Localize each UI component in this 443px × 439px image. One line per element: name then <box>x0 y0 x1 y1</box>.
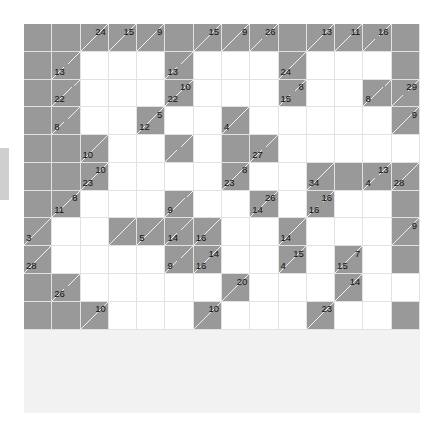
cell-open[interactable] <box>279 107 307 135</box>
cell-open[interactable] <box>165 302 193 330</box>
across-clue: 27 <box>252 150 263 160</box>
cell-open[interactable] <box>335 191 363 219</box>
cell-open[interactable] <box>194 191 222 219</box>
cell-open[interactable] <box>392 274 420 302</box>
cell-open[interactable] <box>307 218 335 246</box>
cell-open[interactable] <box>222 80 250 108</box>
cell-open[interactable] <box>279 163 307 191</box>
cell-open[interactable] <box>222 246 250 274</box>
cell-open[interactable] <box>363 302 391 330</box>
cell-open[interactable] <box>250 163 278 191</box>
cell-open[interactable] <box>109 302 137 330</box>
cell-open[interactable] <box>363 135 391 163</box>
cell-open[interactable] <box>109 163 137 191</box>
cell-open[interactable] <box>81 246 109 274</box>
cell-clue: 15 <box>109 24 137 52</box>
cell-open[interactable] <box>165 274 193 302</box>
cell-open[interactable] <box>307 80 335 108</box>
cell-open[interactable] <box>81 80 109 108</box>
cell-open[interactable] <box>222 191 250 219</box>
cell-open[interactable] <box>279 191 307 219</box>
cell-block <box>24 135 52 163</box>
cell-clue: 15 <box>194 24 222 52</box>
cell-open[interactable] <box>335 302 363 330</box>
cell-open[interactable] <box>109 80 137 108</box>
down-clue: 10 <box>95 165 106 175</box>
cell-open[interactable] <box>307 274 335 302</box>
cell-open[interactable] <box>109 135 137 163</box>
cell-open[interactable] <box>137 52 165 80</box>
cell-open[interactable] <box>363 246 391 274</box>
cell-open[interactable] <box>335 218 363 246</box>
cell-clue: 9 <box>392 107 420 135</box>
cell-open[interactable] <box>250 80 278 108</box>
cell-open[interactable] <box>194 107 222 135</box>
cell-clue: 14 <box>279 218 307 246</box>
cell-open[interactable] <box>81 191 109 219</box>
cell-open[interactable] <box>363 191 391 219</box>
cell-open[interactable] <box>52 246 80 274</box>
cell-open[interactable] <box>279 135 307 163</box>
cell-open[interactable] <box>250 107 278 135</box>
down-clue: 10 <box>95 304 106 314</box>
cell-open[interactable] <box>335 52 363 80</box>
cell-open[interactable] <box>81 107 109 135</box>
kakuro-grid[interactable]: 2415915926131116131324221022815829851249… <box>24 24 420 413</box>
cell-clue: 27 <box>250 135 278 163</box>
cell-open[interactable] <box>137 274 165 302</box>
cell-open[interactable] <box>335 107 363 135</box>
cell-open[interactable] <box>363 218 391 246</box>
cell-open[interactable] <box>363 107 391 135</box>
cell-open[interactable] <box>307 246 335 274</box>
cell-open[interactable] <box>137 302 165 330</box>
cell-open[interactable] <box>250 52 278 80</box>
cell-open[interactable] <box>194 80 222 108</box>
cell-open[interactable] <box>222 218 250 246</box>
cell-open[interactable] <box>109 107 137 135</box>
cell-open[interactable] <box>165 107 193 135</box>
cell-open[interactable] <box>194 274 222 302</box>
cell-open[interactable] <box>250 218 278 246</box>
cell-block <box>24 274 52 302</box>
cell-open[interactable] <box>335 135 363 163</box>
cell-open[interactable] <box>109 191 137 219</box>
cell-block <box>222 135 250 163</box>
cell-open[interactable] <box>194 135 222 163</box>
cell-clue: 20 <box>222 274 250 302</box>
cell-open[interactable] <box>137 246 165 274</box>
cell-open[interactable] <box>165 163 193 191</box>
cell-open[interactable] <box>279 274 307 302</box>
cell-open[interactable] <box>363 274 391 302</box>
cell-open[interactable] <box>250 274 278 302</box>
cell-open[interactable] <box>194 163 222 191</box>
cell-open[interactable] <box>109 246 137 274</box>
cell-open[interactable] <box>222 52 250 80</box>
cell-open[interactable] <box>392 135 420 163</box>
cell-open[interactable] <box>307 135 335 163</box>
cell-open[interactable] <box>222 302 250 330</box>
cell-open[interactable] <box>307 107 335 135</box>
across-clue: 3 <box>26 233 31 243</box>
cell-open[interactable] <box>81 274 109 302</box>
cell-open[interactable] <box>137 80 165 108</box>
kakuro-row: 851249 <box>24 107 420 135</box>
cell-open[interactable] <box>137 163 165 191</box>
kakuro-row: 2891416154715 <box>24 246 420 274</box>
cell-open[interactable] <box>307 52 335 80</box>
cell-open[interactable] <box>137 191 165 219</box>
cell-open[interactable] <box>250 246 278 274</box>
cell-open[interactable] <box>81 52 109 80</box>
cell-open[interactable] <box>279 302 307 330</box>
cell-open[interactable] <box>52 218 80 246</box>
cell-open[interactable] <box>250 302 278 330</box>
cell-open[interactable] <box>137 135 165 163</box>
cell-open[interactable] <box>363 52 391 80</box>
cell-open[interactable] <box>109 274 137 302</box>
cell-block <box>24 302 52 330</box>
cell-open[interactable] <box>109 52 137 80</box>
across-clue: 23 <box>224 178 235 188</box>
cell-open[interactable] <box>81 218 109 246</box>
cell-open[interactable] <box>335 80 363 108</box>
across-clue: 28 <box>26 261 37 271</box>
cell-open[interactable] <box>194 52 222 80</box>
